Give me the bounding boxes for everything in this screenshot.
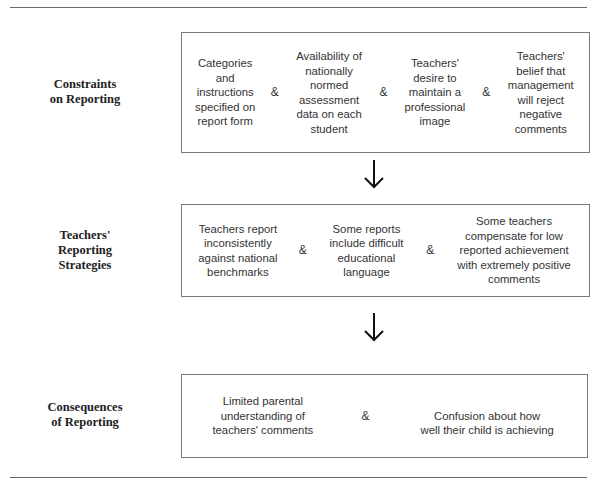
text-line: instructions bbox=[192, 85, 258, 100]
text-line: comments bbox=[503, 122, 579, 137]
text-line: specified on bbox=[192, 100, 258, 115]
text-line: will reject bbox=[503, 93, 579, 108]
down-arrow-icon bbox=[362, 313, 386, 343]
label-line: Consequences bbox=[10, 400, 160, 415]
label-line: Strategies bbox=[10, 258, 160, 273]
connector-and: & bbox=[271, 85, 279, 100]
text-line: Teachers' bbox=[400, 56, 470, 71]
text-line: Confusion about how bbox=[413, 409, 561, 424]
text-line: teachers' comments bbox=[208, 423, 318, 438]
connector-and: & bbox=[361, 409, 369, 424]
text-line: Categories bbox=[192, 56, 258, 71]
text-line: image bbox=[400, 114, 470, 129]
text-line: reported achievement bbox=[452, 243, 576, 258]
text-line: Some reports bbox=[324, 222, 408, 237]
label-line: of Reporting bbox=[10, 415, 160, 430]
text-line: Availability of bbox=[291, 49, 367, 64]
text-line: desire to bbox=[400, 71, 470, 86]
constraint-item-professional-image: Teachers' desire to maintain a professio… bbox=[400, 56, 470, 129]
text-line: include difficult bbox=[324, 236, 408, 251]
text-line: language bbox=[324, 265, 408, 280]
row-label-strategies: Teachers' Reporting Strategies bbox=[10, 228, 160, 273]
row-label-consequences: Consequences of Reporting bbox=[10, 400, 160, 430]
top-rule bbox=[10, 7, 587, 8]
connector-and: & bbox=[379, 85, 387, 100]
text-line: nationally bbox=[291, 64, 367, 79]
bottom-rule bbox=[10, 477, 587, 478]
row-label-constraints: Constraints on Reporting bbox=[10, 77, 160, 107]
connector-and: & bbox=[299, 243, 307, 258]
label-line: Reporting bbox=[10, 243, 160, 258]
text-line: educational bbox=[324, 251, 408, 266]
consequence-item-parental-understanding: Limited parental understanding of teache… bbox=[208, 394, 318, 438]
label-line: Teachers' bbox=[10, 228, 160, 243]
text-line: Teachers' bbox=[503, 49, 579, 64]
text-line: data on each bbox=[291, 107, 367, 122]
text-line: understanding of bbox=[208, 409, 318, 424]
label-line: Constraints bbox=[10, 77, 160, 92]
text-line: against national bbox=[195, 251, 281, 266]
constraint-item-categories: Categories and instructions specified on… bbox=[192, 56, 258, 129]
text-line: negative bbox=[503, 107, 579, 122]
text-line: inconsistently bbox=[195, 236, 281, 251]
label-line: on Reporting bbox=[10, 92, 160, 107]
text-line: professional bbox=[400, 100, 470, 115]
text-line: report form bbox=[192, 114, 258, 129]
constraint-item-management-belief: Teachers' belief that management will re… bbox=[503, 49, 579, 136]
strategy-item-compensate: Some teachers compensate for low reporte… bbox=[452, 214, 576, 287]
consequences-box: Limited parental understanding of teache… bbox=[181, 374, 588, 458]
text-line: belief that bbox=[503, 64, 579, 79]
strategy-item-difficult-language: Some reports include difficult education… bbox=[324, 222, 408, 280]
text-line: Limited parental bbox=[208, 394, 318, 409]
text-line: management bbox=[503, 78, 579, 93]
text-line: compensate for low bbox=[452, 229, 576, 244]
text-line: assessment bbox=[291, 93, 367, 108]
text-line: and bbox=[192, 71, 258, 86]
constraint-item-assessment-data: Availability of nationally normed assess… bbox=[291, 49, 367, 136]
connector-and: & bbox=[426, 243, 434, 258]
text-line: with extremely positive bbox=[452, 258, 576, 273]
text-line: Some teachers bbox=[452, 214, 576, 229]
text-line: student bbox=[291, 122, 367, 137]
text-line: benchmarks bbox=[195, 265, 281, 280]
consequence-item-confusion: Confusion about how well their child is … bbox=[413, 395, 561, 438]
strategy-item-inconsistent: Teachers report inconsistently against n… bbox=[195, 222, 281, 280]
down-arrow-icon bbox=[362, 160, 386, 190]
text-line: normed bbox=[291, 78, 367, 93]
strategies-box: Teachers report inconsistently against n… bbox=[181, 204, 590, 297]
text-line: well their child is achieving bbox=[413, 423, 561, 438]
connector-and: & bbox=[482, 85, 490, 100]
constraints-box: Categories and instructions specified on… bbox=[181, 32, 590, 153]
text-line: maintain a bbox=[400, 85, 470, 100]
text-line: Teachers report bbox=[195, 222, 281, 237]
text-line: comments bbox=[452, 272, 576, 287]
